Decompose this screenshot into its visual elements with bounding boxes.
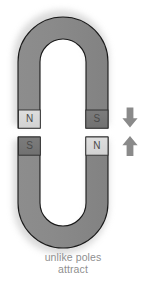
magnet-bottom-right-pole-label: N — [93, 140, 100, 151]
horseshoe-magnet-bottom: S N — [18, 137, 108, 248]
caption-line-2: attract — [0, 264, 146, 276]
magnet-attraction-figure: N S S N unlike poles attract — [0, 0, 146, 291]
horseshoe-magnet-top: N S — [18, 17, 108, 128]
magnet-diagram-canvas: N S S N — [0, 0, 146, 291]
magnet-bottom-left-pole-label: S — [26, 140, 33, 151]
caption-line-1: unlike poles — [0, 252, 146, 264]
force-arrow-up — [122, 136, 137, 156]
magnet-top-left-pole-label: N — [26, 113, 33, 124]
magnet-top-right-pole-label: S — [94, 113, 101, 124]
figure-caption: unlike poles attract — [0, 252, 146, 275]
force-arrow-down — [122, 108, 137, 128]
